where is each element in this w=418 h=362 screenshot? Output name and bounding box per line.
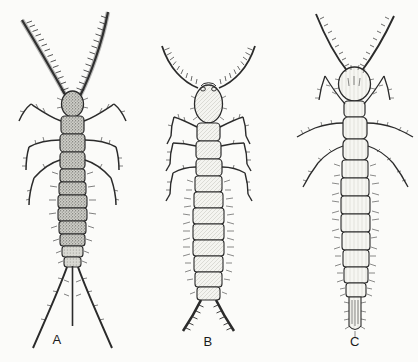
figure-label-a: A (42, 332, 72, 347)
figure-c: C (288, 0, 418, 362)
abdomen-b (183, 176, 234, 300)
antenna-right-c (360, 16, 394, 72)
thorax-a (60, 116, 85, 169)
illustration-plate: A (0, 0, 418, 362)
figure-b: B (145, 0, 275, 362)
figure-b-drawing (145, 0, 275, 362)
head-b (190, 83, 227, 123)
figure-label-b: B (193, 334, 223, 349)
figure-a: A (0, 0, 145, 362)
antenna-left-b (162, 46, 198, 88)
antenna-left-c (316, 14, 349, 72)
thorax-c (343, 101, 368, 160)
figure-a-drawing (0, 0, 145, 362)
cerci-b (183, 300, 234, 331)
figure-c-drawing (288, 0, 418, 362)
head-c (334, 65, 375, 101)
antenna-left-a (22, 20, 69, 96)
abdomen-a (49, 169, 96, 267)
terminal-filament-c (344, 297, 366, 337)
antenna-right-a (77, 12, 109, 96)
thorax-b (196, 123, 222, 176)
figure-label-c: C (340, 334, 370, 349)
abdomen-c (332, 160, 379, 297)
antenna-right-b (219, 46, 255, 88)
